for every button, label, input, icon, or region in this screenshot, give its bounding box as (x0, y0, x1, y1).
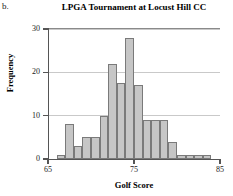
histogram-figure: b. LPGA Tournament at Locust Hill CC 010… (0, 0, 233, 196)
histogram-bar (117, 83, 126, 159)
x-axis-label: Golf Score (48, 180, 220, 190)
histogram-bar (151, 120, 160, 159)
y-tick-label: 10 (26, 111, 40, 120)
histogram-bar (65, 124, 74, 159)
histogram-bar (203, 155, 212, 159)
x-tick-label: 75 (122, 165, 146, 174)
histogram-bar (108, 64, 117, 159)
x-tick-label: 65 (36, 165, 60, 174)
histogram-bar (100, 116, 109, 159)
x-tick-mark-65 (47, 159, 48, 164)
histogram-bar (57, 155, 66, 159)
histogram-bar (186, 155, 195, 159)
x-tick-mark-75 (133, 159, 134, 164)
histogram-bar (134, 85, 143, 159)
chart-title: LPGA Tournament at Locust Hill CC (48, 2, 220, 12)
y-axis-label: Frequency (5, 42, 15, 104)
x-tick-label: 85 (208, 165, 232, 174)
y-tick-label: 30 (26, 24, 40, 33)
x-tick-mark-85 (219, 159, 220, 164)
histogram-bar (82, 137, 91, 159)
histogram-bar (168, 142, 177, 159)
y-tick-label: 0 (26, 154, 40, 163)
histogram-bar (194, 155, 203, 159)
histogram-bar (91, 137, 100, 159)
histogram-bar (160, 120, 169, 159)
y-tick-label: 20 (26, 67, 40, 76)
part-label: b. (2, 1, 9, 11)
histogram-bar (177, 155, 186, 159)
histogram-bar (143, 120, 152, 159)
histogram-bar (125, 38, 134, 159)
histogram-bar (74, 146, 83, 159)
